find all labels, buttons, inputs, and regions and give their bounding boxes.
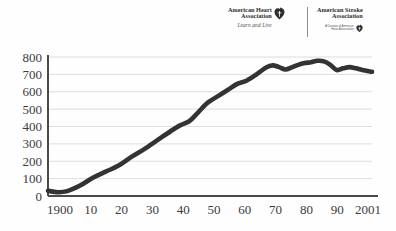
gridlines — [48, 57, 372, 179]
x-tick-label: 40 — [177, 202, 190, 217]
x-tick-label: 80 — [300, 202, 313, 217]
y-tick-label: 500 — [23, 102, 43, 117]
chart-canvas: 0100200300400500600700800 19001020304050… — [0, 0, 396, 231]
x-tick-label: 2001 — [355, 202, 381, 217]
x-axis-tick-labels: 19001020304050607080902001 — [47, 202, 381, 217]
y-tick-label: 300 — [23, 136, 43, 151]
y-tick-label: 0 — [36, 189, 43, 204]
line-chart: 0100200300400500600700800 19001020304050… — [0, 0, 396, 231]
x-tick-label: 70 — [269, 202, 282, 217]
x-tick-label: 90 — [331, 202, 344, 217]
y-tick-label: 100 — [23, 171, 43, 186]
y-tick-label: 200 — [23, 154, 43, 169]
x-tick-label: 30 — [146, 202, 159, 217]
x-tick-label: 10 — [84, 202, 97, 217]
y-tick-label: 400 — [23, 119, 43, 134]
y-tick-label: 800 — [23, 50, 43, 65]
y-tick-label: 600 — [23, 84, 43, 99]
y-tick-label: 700 — [23, 67, 43, 82]
x-tick-label: 20 — [115, 202, 128, 217]
x-tick-label: 1900 — [47, 202, 73, 217]
y-axis-tick-labels: 0100200300400500600700800 — [23, 50, 43, 204]
chart-page: American Heart Association Learn and Liv… — [0, 0, 396, 231]
x-tick-label: 50 — [208, 202, 221, 217]
x-tick-label: 60 — [238, 202, 251, 217]
